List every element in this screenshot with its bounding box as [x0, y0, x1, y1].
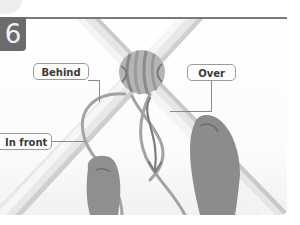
top-rule-divider [24, 17, 287, 19]
photo-frame [0, 17, 287, 215]
behind-leader-vertical [99, 80, 100, 102]
knot-ball [119, 50, 165, 94]
decorative-corner-shape [0, 0, 22, 14]
left-hand [87, 156, 121, 215]
knot-photo [0, 17, 287, 215]
over-leader-horizontal [170, 111, 212, 112]
in-front-leader [52, 141, 84, 142]
step-number-badge: 6 [0, 17, 26, 51]
over-label: Over [187, 64, 236, 81]
over-leader [211, 80, 212, 112]
in-front-label: In front [0, 133, 52, 150]
behind-label: Behind [33, 63, 89, 80]
right-hand [190, 115, 240, 215]
